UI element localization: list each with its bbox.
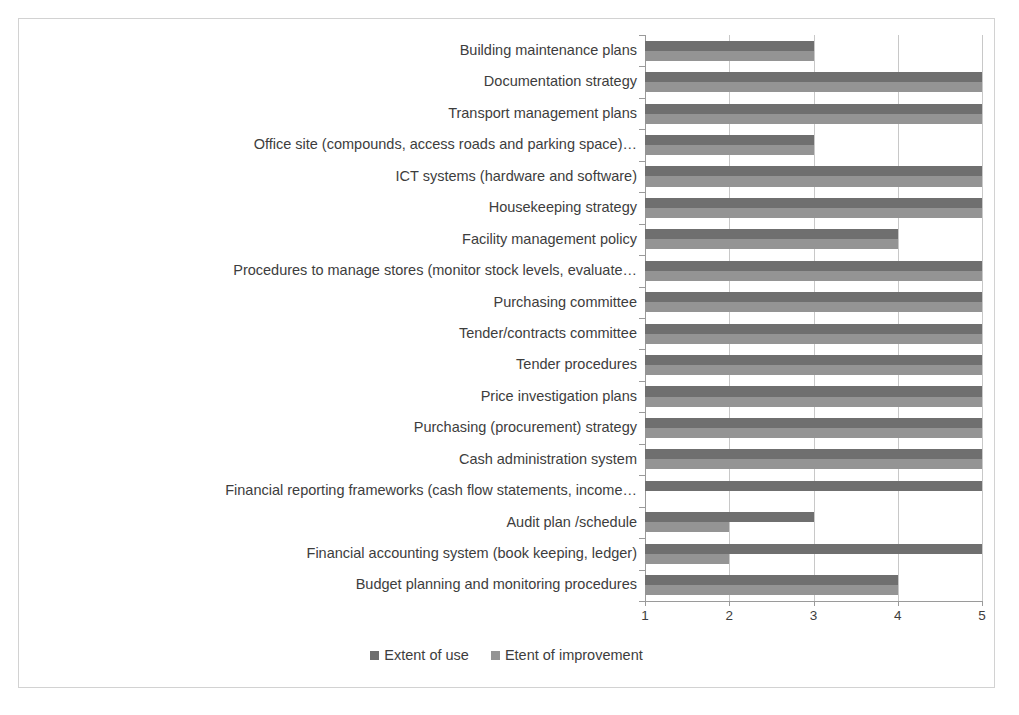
bar-group	[645, 192, 982, 223]
bar-extent-of-use	[645, 292, 982, 302]
x-axis: 12345	[645, 601, 982, 635]
bar-extent-of-use	[645, 41, 814, 51]
bar-group	[645, 287, 982, 318]
bar-group	[645, 255, 982, 286]
legend-item[interactable]: Etent of improvement	[491, 647, 643, 663]
bar-group	[645, 161, 982, 192]
x-axis-tick	[645, 601, 646, 606]
x-axis-tick-label: 3	[810, 608, 818, 623]
bar-row: Audit plan /schedule	[33, 507, 982, 538]
bar-extent-of-improvement	[645, 459, 982, 469]
legend-label: Extent of use	[384, 647, 469, 663]
bar-extent-of-use	[645, 72, 982, 82]
category-label: Purchasing (procurement) strategy	[33, 412, 645, 443]
bar-extent-of-use	[645, 135, 814, 145]
bar-row: Tender/contracts committee	[33, 318, 982, 349]
bar-group	[645, 507, 982, 538]
bar-extent-of-improvement	[645, 145, 814, 155]
x-axis-tick	[729, 601, 730, 606]
category-label: Cash administration system	[33, 444, 645, 475]
bar-extent-of-improvement	[645, 114, 982, 124]
bar-row: Transport management plans	[33, 98, 982, 129]
chart-frame: Building maintenance plansDocumentation …	[18, 18, 995, 688]
category-label: Procedures to manage stores (monitor sto…	[33, 255, 645, 286]
bar-extent-of-use	[645, 481, 982, 491]
bar-extent-of-use	[645, 575, 898, 585]
bar-row: Procedures to manage stores (monitor sto…	[33, 255, 982, 286]
bar-group	[645, 98, 982, 129]
category-label: Transport management plans	[33, 98, 645, 129]
bar-row: Purchasing committee	[33, 287, 982, 318]
bar-group	[645, 318, 982, 349]
x-axis-tick	[814, 601, 815, 606]
bar-rows: Building maintenance plansDocumentation …	[33, 35, 982, 601]
category-label: Budget planning and monitoring procedure…	[33, 569, 645, 600]
category-label: Building maintenance plans	[33, 35, 645, 66]
bar-group	[645, 475, 982, 506]
bar-row: Facility management policy	[33, 224, 982, 255]
bar-group	[645, 224, 982, 255]
bar-row: Tender procedures	[33, 349, 982, 380]
bar-extent-of-improvement	[645, 51, 814, 61]
category-label: Documentation strategy	[33, 66, 645, 97]
chart-plot-area: Building maintenance plansDocumentation …	[19, 19, 994, 687]
bar-row: ICT systems (hardware and software)	[33, 161, 982, 192]
legend-item[interactable]: Extent of use	[370, 647, 469, 663]
x-axis-tick	[982, 601, 983, 606]
bar-extent-of-improvement	[645, 239, 898, 249]
category-label: Price investigation plans	[33, 381, 645, 412]
bar-group	[645, 444, 982, 475]
bar-group	[645, 569, 982, 600]
bar-row: Documentation strategy	[33, 66, 982, 97]
bar-extent-of-improvement	[645, 428, 982, 438]
chart-legend: Extent of useEtent of improvement	[19, 647, 994, 663]
bar-extent-of-improvement	[645, 82, 982, 92]
bar-extent-of-use	[645, 355, 982, 365]
bar-extent-of-use	[645, 198, 982, 208]
category-label: Financial reporting frameworks (cash flo…	[33, 475, 645, 506]
bar-group	[645, 381, 982, 412]
bar-group	[645, 349, 982, 380]
gridline	[982, 35, 983, 601]
bar-extent-of-improvement	[645, 522, 729, 532]
x-axis-tick-label: 4	[894, 608, 902, 623]
category-label: Audit plan /schedule	[33, 507, 645, 538]
bar-group	[645, 35, 982, 66]
bar-extent-of-improvement	[645, 271, 982, 281]
x-axis-tick-label: 5	[978, 608, 986, 623]
bar-extent-of-improvement	[645, 334, 982, 344]
bar-extent-of-use	[645, 229, 898, 239]
bar-row: Budget planning and monitoring procedure…	[33, 569, 982, 600]
bar-row: Financial reporting frameworks (cash flo…	[33, 475, 982, 506]
bar-row: Price investigation plans	[33, 381, 982, 412]
bar-extent-of-improvement	[645, 397, 982, 407]
bar-extent-of-use	[645, 261, 982, 271]
bar-group	[645, 538, 982, 569]
legend-label: Etent of improvement	[505, 647, 643, 663]
category-label: Purchasing committee	[33, 287, 645, 318]
bar-row: Purchasing (procurement) strategy	[33, 412, 982, 443]
bar-extent-of-improvement	[645, 554, 729, 564]
category-label: Office site (compounds, access roads and…	[33, 129, 645, 160]
legend-swatch-icon	[370, 651, 379, 660]
bar-extent-of-improvement	[645, 176, 982, 186]
bar-extent-of-use	[645, 104, 982, 114]
bar-row: Office site (compounds, access roads and…	[33, 129, 982, 160]
bar-group	[645, 412, 982, 443]
bar-row: Cash administration system	[33, 444, 982, 475]
bar-group	[645, 66, 982, 97]
bar-extent-of-improvement	[645, 585, 898, 595]
x-axis-tick	[898, 601, 899, 606]
category-label: Financial accounting system (book keepin…	[33, 538, 645, 569]
bar-extent-of-use	[645, 324, 982, 334]
category-label: Facility management policy	[33, 224, 645, 255]
category-label: ICT systems (hardware and software)	[33, 161, 645, 192]
bar-row: Building maintenance plans	[33, 35, 982, 66]
legend-swatch-icon	[491, 651, 500, 660]
category-label: Tender procedures	[33, 349, 645, 380]
bar-extent-of-use	[645, 386, 982, 396]
bar-extent-of-improvement	[645, 302, 982, 312]
x-axis-tick-label: 2	[725, 608, 733, 623]
bar-extent-of-use	[645, 449, 982, 459]
bar-row: Housekeeping strategy	[33, 192, 982, 223]
